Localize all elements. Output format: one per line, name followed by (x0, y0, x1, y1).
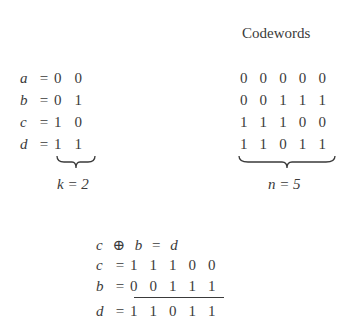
message-var: d (20, 135, 34, 153)
message-row-d: d=11 (20, 135, 87, 153)
message-var: b (20, 91, 34, 109)
equals-sign: = (34, 113, 54, 131)
codeword-row: 00111 (240, 91, 331, 109)
n-label: n = 5 (268, 176, 301, 193)
xor-equation: c ⊕ b = d (96, 236, 178, 254)
codewords-title: Codewords (242, 25, 310, 42)
bit: 1 (208, 302, 221, 320)
codeword-row: 11011 (240, 135, 331, 153)
bit: 1 (150, 256, 163, 274)
message-row-b: b=01 (20, 91, 87, 109)
bit: 0 (75, 69, 88, 87)
equals-sign: = (152, 237, 160, 253)
bit: 0 (240, 91, 253, 109)
bit: 1 (54, 135, 67, 153)
bit: 1 (260, 135, 273, 153)
bit: 0 (279, 69, 292, 87)
equals-sign: = (34, 69, 54, 87)
k-label: k = 2 (57, 176, 89, 193)
bit: 1 (75, 91, 88, 109)
bit: 0 (150, 277, 163, 295)
equals-sign: = (110, 256, 130, 274)
bit: 1 (240, 135, 253, 153)
bit: 1 (260, 113, 273, 131)
bit: 0 (54, 91, 67, 109)
bit: 1 (318, 135, 331, 153)
row-var: d (96, 302, 110, 320)
bit: 1 (299, 135, 312, 153)
bit: 1 (189, 277, 202, 295)
n-brace-icon (238, 155, 336, 169)
bit: 0 (260, 91, 273, 109)
equals-sign: = (34, 91, 54, 109)
bit: 0 (75, 113, 88, 131)
bit: 1 (150, 302, 163, 320)
bit: 1 (279, 91, 292, 109)
xor-result-var: d (170, 237, 178, 253)
bit: 0 (54, 69, 67, 87)
message-var: a (20, 69, 34, 87)
xor-row-b: b=00111 (96, 277, 221, 295)
message-row-a: a=00 (20, 69, 87, 87)
bit: 0 (169, 302, 182, 320)
bit: 0 (318, 69, 331, 87)
bit: 0 (318, 113, 331, 131)
bit: 0 (208, 256, 221, 274)
sum-rule (134, 297, 224, 298)
xor-row-d: d=11011 (96, 302, 221, 320)
message-var: c (20, 113, 34, 131)
row-var: b (96, 277, 110, 295)
bit: 0 (299, 113, 312, 131)
bit: 0 (240, 69, 253, 87)
codeword-row: 11100 (240, 113, 331, 131)
k-brace-icon (56, 155, 96, 169)
bit: 1 (240, 113, 253, 131)
bit: 0 (260, 69, 273, 87)
bit: 1 (130, 302, 143, 320)
bit: 1 (318, 91, 331, 109)
bit: 1 (169, 256, 182, 274)
equals-sign: = (110, 277, 130, 295)
equals-sign: = (110, 302, 130, 320)
bit: 1 (54, 113, 67, 131)
bit: 0 (279, 135, 292, 153)
bit: 1 (189, 302, 202, 320)
bit: 1 (130, 256, 143, 274)
bit: 0 (189, 256, 202, 274)
xor-right-var: b (135, 237, 143, 253)
bit: 1 (75, 135, 88, 153)
bit: 0 (130, 277, 143, 295)
codeword-row: 00000 (240, 69, 331, 87)
equals-sign: = (34, 135, 54, 153)
bit: 0 (299, 69, 312, 87)
bit: 1 (299, 91, 312, 109)
xor-left-var: c (96, 237, 103, 253)
bit: 1 (279, 113, 292, 131)
xor-row-c: c=11100 (96, 256, 221, 274)
row-var: c (96, 256, 110, 274)
xor-operator-icon: ⊕ (112, 237, 125, 253)
bit: 1 (208, 277, 221, 295)
bit: 1 (169, 277, 182, 295)
message-row-c: c=10 (20, 113, 87, 131)
